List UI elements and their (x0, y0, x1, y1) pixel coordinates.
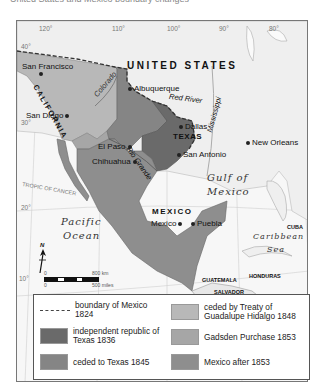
city-san-diego: San Diego (26, 111, 71, 120)
label-cuba: CUBA (287, 223, 303, 232)
city-albuquerque: Albuquerque (126, 84, 179, 93)
label-united-states: UNITED STATES (127, 61, 237, 70)
label-gulf-1: Gulf of (207, 173, 248, 182)
swatch-guadalupe-hidalgo-1848 (171, 304, 199, 320)
city-san-antonio: San Antonio (175, 150, 226, 159)
longitude-110: 110° (112, 25, 125, 32)
scale-bar: 0 800 km 0 500 miles (44, 276, 124, 292)
city-dot-san-francisco (39, 72, 43, 76)
legend-item-boundary-1824: boundary of Mexico 1824 (40, 301, 165, 319)
scale-zero-top: 0 (44, 270, 47, 276)
swatch-gadsden-1853 (171, 329, 199, 345)
swatch-ceded-texas-1845 (40, 354, 68, 370)
scale-bar-graphic (44, 277, 99, 282)
city-puebla: Puebla (189, 219, 222, 228)
compass: N (37, 244, 49, 274)
city-chihuahua: Chihuahua (92, 157, 139, 166)
longitude-90: 90° (219, 25, 229, 32)
latitude-20: 20° (21, 204, 31, 211)
latitude-40: 40° (21, 43, 31, 50)
label-caribbean-2: Sea (267, 245, 285, 254)
city-mexico-city: Mexico (151, 219, 184, 228)
latitude-10: 10° (19, 275, 29, 282)
label-pacific-2: Ocean (63, 231, 100, 240)
scale-zero-bottom: 0 (44, 282, 47, 288)
longitude-120: 120° (39, 25, 52, 32)
city-dallas: Dallas (177, 122, 207, 131)
legend: boundary of Mexico 1824 independent repu… (33, 294, 310, 380)
legend-item-gadsden-1853: Gadsden Purchase 1853 (171, 329, 307, 345)
legend-item-ceded-texas-1845: ceded to Texas 1845 (40, 354, 165, 370)
legend-item-mexico-after-1853: Mexico after 1853 (171, 354, 307, 370)
city-san-francisco: San Francisco (22, 62, 73, 71)
scale-km: 800 km (92, 270, 108, 276)
label-honduras: HONDURAS (249, 272, 281, 281)
swatch-mexico-after-1853 (171, 354, 199, 370)
north-arrow-icon (37, 249, 49, 279)
dashed-line-swatch (40, 310, 70, 311)
label-caribbean-1: Caribbean (253, 232, 304, 241)
longitude-100: 100° (167, 25, 180, 32)
label-pacific-1: Pacific (61, 217, 102, 226)
swatch-texas-1836 (40, 328, 68, 344)
scale-miles: 500 miles (92, 282, 113, 288)
city-new-orleans: New Orleans (244, 138, 298, 147)
legend-item-texas-1836: independent republic of Texas 1836 (40, 327, 165, 345)
longitude-80: 80° (269, 25, 279, 32)
label-guatemala: GUATEMALA (202, 276, 237, 285)
legend-item-guadalupe-hidalgo-1848: ceded by Treaty of Guadalupe Hidalgo 184… (171, 303, 307, 321)
latitude-30: 30° (21, 119, 31, 126)
city-el-paso: El Paso (98, 142, 134, 151)
label-gulf-2: Mexico (207, 187, 250, 196)
cut-off-heading: United States and Mexico boundary change… (10, 0, 189, 4)
label-texas: TEXAS (173, 132, 202, 141)
label-mexico-country: MEXICO (152, 207, 193, 216)
